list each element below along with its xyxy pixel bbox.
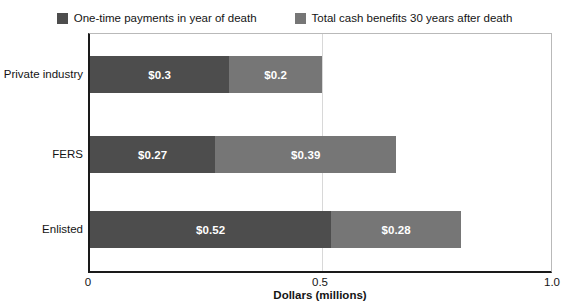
legend-entry-one-time-payments: One-time payments in year of death <box>57 12 257 24</box>
chart-bars: $0.3 $0.2 $0.27 $0.39 $0.52 $0.28 <box>90 34 551 271</box>
bar-value-label: $0.2 <box>264 69 287 81</box>
y-axis-label-fers: FERS <box>52 135 83 172</box>
bar-value-label: $0.28 <box>382 224 411 236</box>
bar-segment-one-time-payments[interactable]: $0.27 <box>90 136 215 173</box>
bar-value-label: $0.39 <box>291 149 320 161</box>
legend-entry-total-cash-benefits: Total cash benefits 30 years after death <box>295 12 513 24</box>
y-axis-category-labels: Private industry FERS Enlisted <box>0 33 83 273</box>
legend-swatch-total-cash-benefits <box>295 13 306 24</box>
bar-segment-one-time-payments[interactable]: $0.52 <box>90 211 331 248</box>
chart-legend: One-time payments in year of death Total… <box>0 8 569 28</box>
legend-label-total-cash-benefits: Total cash benefits 30 years after death <box>312 12 513 24</box>
x-axis-tick-label: 0 <box>85 276 91 288</box>
bar-value-label: $0.27 <box>138 149 167 161</box>
bar-segment-total-cash-benefits[interactable]: $0.2 <box>229 56 322 93</box>
bar-row-enlisted[interactable]: $0.52 $0.28 <box>90 211 461 248</box>
chart-plot-area: $0.3 $0.2 $0.27 $0.39 $0.52 $0.28 <box>88 33 552 273</box>
legend-label-one-time-payments: One-time payments in year of death <box>74 12 257 24</box>
x-axis-tick-label: 1.0 <box>544 276 560 288</box>
bar-segment-total-cash-benefits[interactable]: $0.28 <box>331 211 461 248</box>
bar-segment-total-cash-benefits[interactable]: $0.39 <box>215 136 396 173</box>
y-axis-label-private-industry: Private industry <box>4 55 83 92</box>
bar-segment-one-time-payments[interactable]: $0.3 <box>90 56 229 93</box>
bar-row-private-industry[interactable]: $0.3 $0.2 <box>90 56 322 93</box>
legend-swatch-one-time-payments <box>57 13 68 24</box>
x-axis-title: Dollars (millions) <box>88 289 552 301</box>
bar-value-label: $0.52 <box>196 224 225 236</box>
x-axis-tick-label: 0.5 <box>312 276 328 288</box>
y-axis-label-enlisted: Enlisted <box>42 210 83 247</box>
bar-row-fers[interactable]: $0.27 $0.39 <box>90 136 396 173</box>
bar-value-label: $0.3 <box>148 69 171 81</box>
